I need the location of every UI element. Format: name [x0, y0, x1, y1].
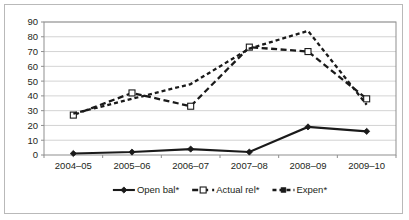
- data-series-layer: [70, 31, 370, 157]
- plot-area-frame: [44, 22, 396, 155]
- y-axis-tick-label: 80: [27, 31, 38, 42]
- data-point-marker-square: [305, 49, 311, 55]
- data-point-marker-square: [364, 96, 370, 102]
- legend-label: Open bal*: [137, 184, 180, 195]
- y-axis-tick-label: 90: [27, 16, 38, 27]
- legend-item-1[interactable]: Open bal*: [113, 184, 180, 195]
- x-axis-category-label: 2008–09: [290, 160, 327, 171]
- gridlines-group: [44, 22, 396, 140]
- legend-item-2[interactable]: Actual rel*: [192, 184, 260, 195]
- x-axis-category-label: 2007–08: [231, 160, 268, 171]
- y-axis-tick-label: 0: [33, 149, 38, 160]
- y-axis-tick-label: 50: [27, 76, 38, 87]
- x-axis-category-label: 2005–06: [114, 160, 151, 171]
- y-axis-tick-label: 60: [27, 61, 38, 72]
- data-point-marker-diamond: [121, 187, 127, 193]
- legend-label: Actual rel*: [216, 184, 260, 195]
- y-axis-tick-label: 20: [27, 120, 38, 131]
- series-3: [73, 31, 366, 114]
- x-axis-category-labels: 2004–052005–062006–072007–082008–092009–…: [55, 160, 385, 171]
- y-axis-tick-label: 30: [27, 105, 38, 116]
- data-point-marker-diamond: [70, 150, 76, 156]
- data-point-marker-diamond: [364, 128, 370, 134]
- legend-label: Expen*: [296, 184, 327, 195]
- data-point-marker-diamond: [129, 149, 135, 155]
- legend-dash-sample: [281, 188, 285, 192]
- chart-container: 0102030405060708090 2004–052005–062006–0…: [0, 0, 409, 220]
- x-axis-category-label: 2006–07: [172, 160, 209, 171]
- data-point-marker-diamond: [246, 149, 252, 155]
- data-point-marker-diamond: [305, 124, 311, 130]
- y-axis-tick-labels: 0102030405060708090: [27, 16, 38, 160]
- line-chart: 0102030405060708090 2004–052005–062006–0…: [0, 0, 409, 220]
- y-axis-tick-label: 10: [27, 135, 38, 146]
- series-line: [73, 31, 366, 114]
- data-point-marker-square: [200, 187, 206, 193]
- legend-item-3[interactable]: Expen*: [272, 184, 327, 195]
- data-point-marker-diamond: [188, 146, 194, 152]
- y-axis-tick-label: 70: [27, 46, 38, 57]
- x-axis-category-label: 2004–05: [55, 160, 92, 171]
- chart-legend: Open bal*Actual rel*Expen*: [113, 184, 328, 195]
- data-point-marker-square: [188, 103, 194, 109]
- data-point-marker-square: [129, 90, 135, 96]
- y-axis-tick-label: 40: [27, 90, 38, 101]
- x-axis-category-label: 2009–10: [348, 160, 385, 171]
